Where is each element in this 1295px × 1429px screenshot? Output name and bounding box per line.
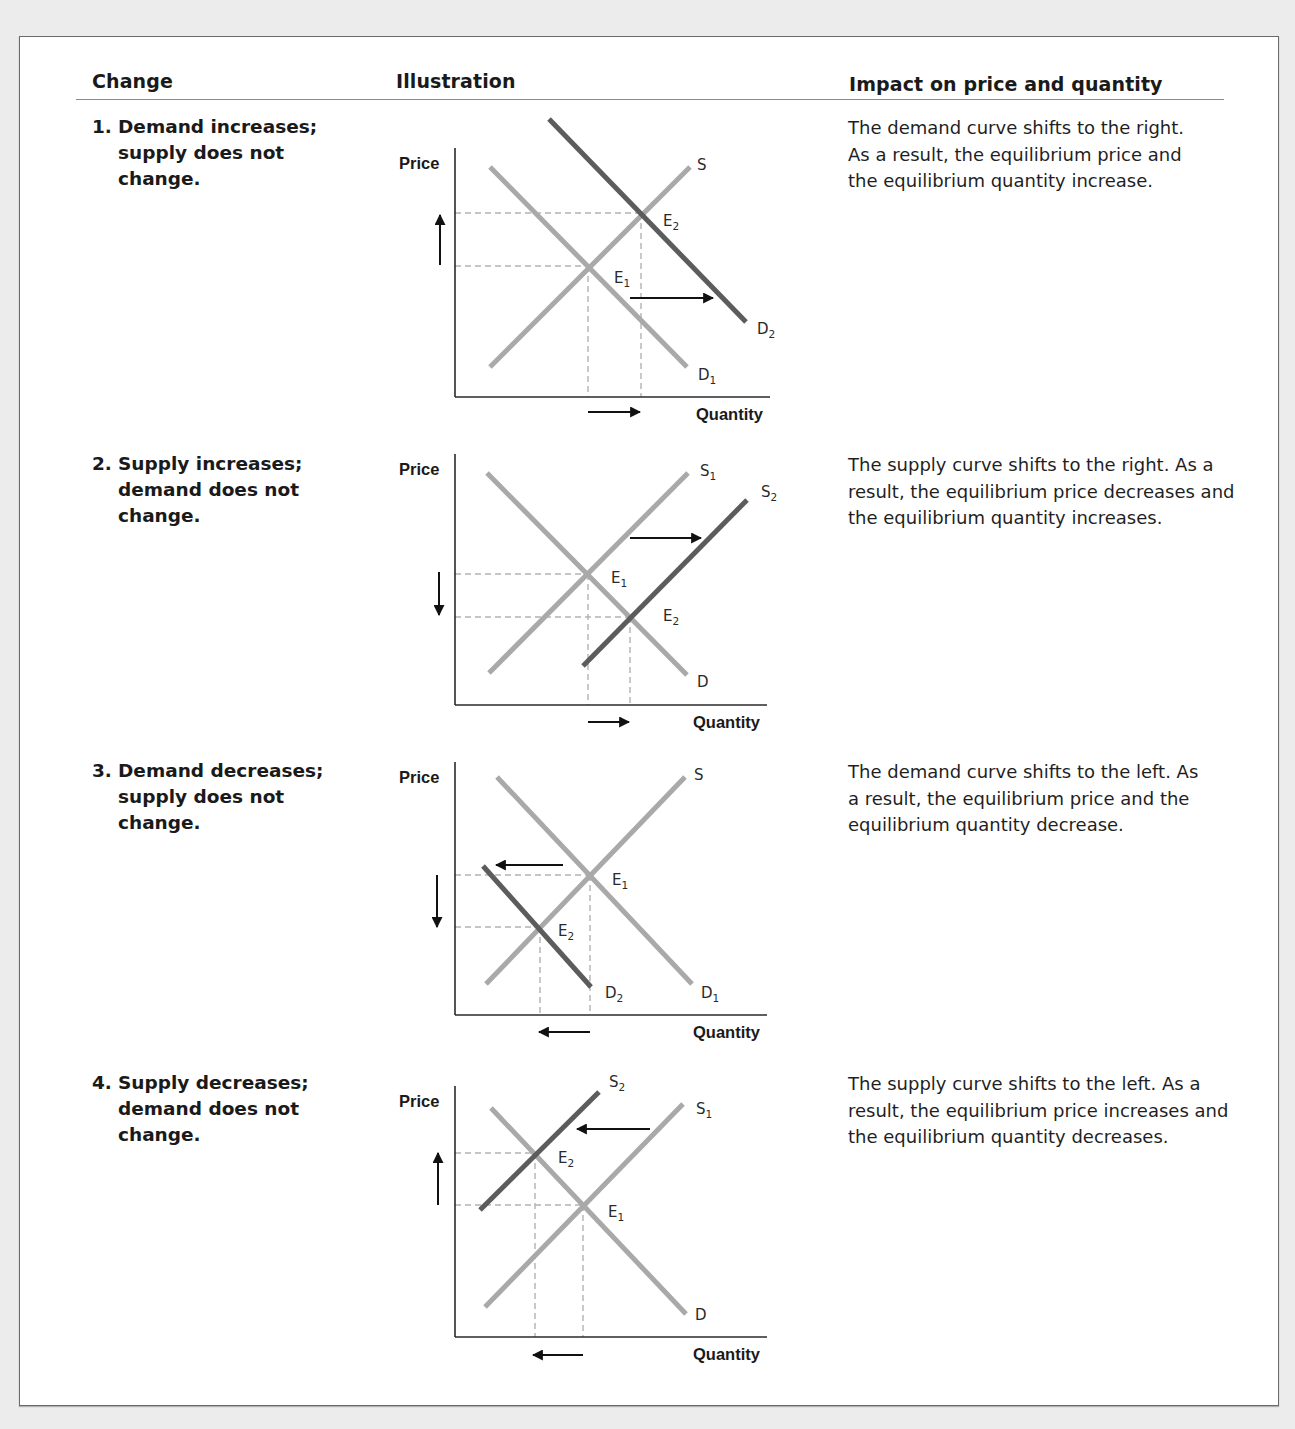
diagram-3: SD1D2PriceQuantityE1E2 (399, 762, 767, 1041)
equilibrium-label-e1: E1 (614, 269, 630, 289)
supply-demand-diagrams: SD1D2PriceQuantityE1E2 S1DS2PriceQuantit… (0, 0, 1295, 1429)
curve-label-s: S (697, 156, 707, 174)
price-axis-label: Price (399, 1092, 439, 1110)
supply-curve-s2 (583, 500, 747, 666)
equilibrium-label-e1: E1 (608, 1203, 624, 1223)
curve-label-s1: S1 (696, 1100, 712, 1120)
curve-label-d1: D1 (698, 366, 716, 386)
curve-label-s: S (694, 766, 704, 784)
demand-curve-d2 (549, 119, 746, 322)
price-axis-label: Price (399, 154, 439, 172)
curve-label-d: D (697, 673, 709, 691)
curve-label-s1: S1 (700, 462, 716, 482)
curve-label-d: D (695, 1306, 707, 1324)
quantity-axis-label: Quantity (696, 405, 764, 423)
demand-curve-d (491, 1108, 686, 1314)
equilibrium-label-e2: E2 (663, 607, 679, 627)
equilibrium-label-e2: E2 (558, 1149, 574, 1169)
diagram-1: SD1D2PriceQuantityE1E2 (399, 119, 775, 423)
curve-label-d1: D1 (701, 984, 719, 1004)
diagram-2: S1DS2PriceQuantityE1E2 (399, 454, 777, 731)
equilibrium-label-e2: E2 (558, 922, 574, 942)
curve-label-s2: S2 (609, 1073, 625, 1093)
quantity-axis-label: Quantity (693, 1345, 761, 1363)
price-axis-label: Price (399, 768, 439, 786)
demand-curve-d1 (497, 777, 692, 984)
quantity-axis-label: Quantity (693, 1023, 761, 1041)
equilibrium-label-e1: E1 (612, 871, 628, 891)
quantity-axis-label: Quantity (693, 713, 761, 731)
curve-label-d2: D2 (605, 984, 623, 1004)
curve-label-s2: S2 (761, 483, 777, 503)
supply-curve-s (486, 777, 685, 984)
diagram-4: S1DS2PriceQuantityE1E2 (399, 1073, 767, 1363)
supply-curve-s2 (480, 1092, 599, 1210)
equilibrium-label-e1: E1 (611, 569, 627, 589)
equilibrium-label-e2: E2 (663, 212, 679, 232)
curve-label-d2: D2 (757, 320, 775, 340)
price-axis-label: Price (399, 460, 439, 478)
